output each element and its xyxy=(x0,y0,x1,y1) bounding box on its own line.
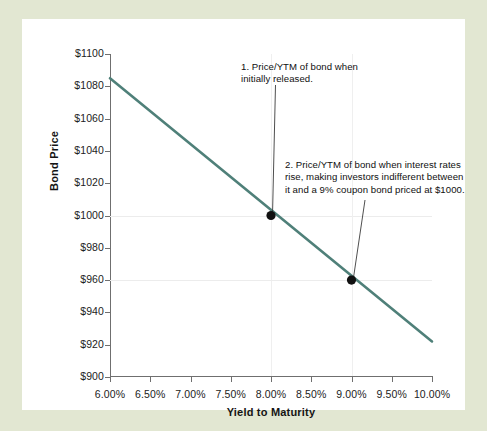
x-axis-tick-label: 6.00% xyxy=(95,388,125,400)
gridline-horizontal xyxy=(110,280,432,281)
gridline-vertical xyxy=(352,54,353,376)
y-axis-tick-label: $1080 xyxy=(74,79,104,91)
y-axis-tick xyxy=(105,345,110,346)
y-axis-tick xyxy=(105,312,110,313)
x-axis-tick-label: 9.50% xyxy=(377,388,407,400)
x-axis-tick-label: 8.50% xyxy=(296,388,326,400)
plot-area xyxy=(110,54,432,377)
y-axis-tick xyxy=(105,151,110,152)
x-axis-tick-label: 10.00% xyxy=(414,388,450,400)
y-axis-tick-label: $1100 xyxy=(75,47,104,59)
y-axis-tick-label: $1020 xyxy=(74,176,104,188)
x-axis-tick-labels: 6.00%6.50%7.00%7.50%8.00%8.50%9.00%9.50%… xyxy=(110,382,440,402)
y-axis-tick xyxy=(105,183,110,184)
x-axis-tick-label: 7.00% xyxy=(175,388,205,400)
y-axis-tick-label: $940 xyxy=(80,305,104,317)
annotation-line: initially released. xyxy=(241,73,391,85)
x-axis-tick-label: 8.00% xyxy=(256,388,286,400)
x-axis-tick-label: 7.50% xyxy=(216,388,246,400)
y-axis-tick xyxy=(105,54,110,55)
y-axis-tick-label: $920 xyxy=(80,338,104,350)
y-axis-tick-label: $1000 xyxy=(74,209,104,221)
y-axis-tick xyxy=(105,119,110,120)
annotation-line: 1. Price/YTM of bond when xyxy=(241,61,391,73)
annotation-2: 2. Price/YTM of bond when interest rates… xyxy=(285,159,482,196)
y-axis-tick-label: $960 xyxy=(80,273,104,285)
y-axis-tick xyxy=(105,86,110,87)
annotation-1: 1. Price/YTM of bond wheninitially relea… xyxy=(241,61,391,86)
annotation-line: rise, making investors indifferent betwe… xyxy=(285,171,482,183)
y-axis-tick-label: $1040 xyxy=(74,144,104,156)
y-axis-tick-labels: $1100$1080$1060$1040$1020$1000$980$960$9… xyxy=(22,54,104,377)
x-axis-title: Yield to Maturity xyxy=(110,406,432,418)
x-axis-tick-label: 9.00% xyxy=(336,388,366,400)
annotation-line: it and a 9% coupon bond priced at $1000. xyxy=(285,184,482,196)
y-axis-tick-label: $980 xyxy=(80,241,104,253)
y-axis-tick xyxy=(105,280,110,281)
y-axis-tick-label: $900 xyxy=(80,370,104,382)
x-axis-tick-label: 6.50% xyxy=(135,388,165,400)
gridline-vertical xyxy=(271,54,272,376)
y-axis-tick-label: $1060 xyxy=(74,112,104,124)
annotation-line: 2. Price/YTM of bond when interest rates xyxy=(285,159,482,171)
chart-card: Bond Price $1100$1080$1060$1040$1020$100… xyxy=(22,19,465,410)
figure-frame: Bond Price $1100$1080$1060$1040$1020$100… xyxy=(0,0,487,431)
y-axis-tick xyxy=(105,216,110,217)
y-axis-tick xyxy=(105,248,110,249)
